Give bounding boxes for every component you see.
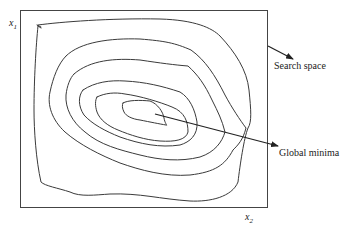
contour-level-2 [49,39,246,175]
search-space-label: Search space [274,60,326,71]
search-space-boundary [21,11,268,208]
contour-level-3 [66,59,225,160]
search-space-arrow [268,46,293,59]
contour-level-4 [79,81,197,146]
contour-level-1 [34,19,251,201]
x1-axis-label: x1 [9,17,17,31]
contour-level-6 [122,100,166,125]
x2-axis-label: x2 [245,211,253,225]
contour-diagram [0,0,351,232]
global-minima-label: Global minima [279,147,339,158]
